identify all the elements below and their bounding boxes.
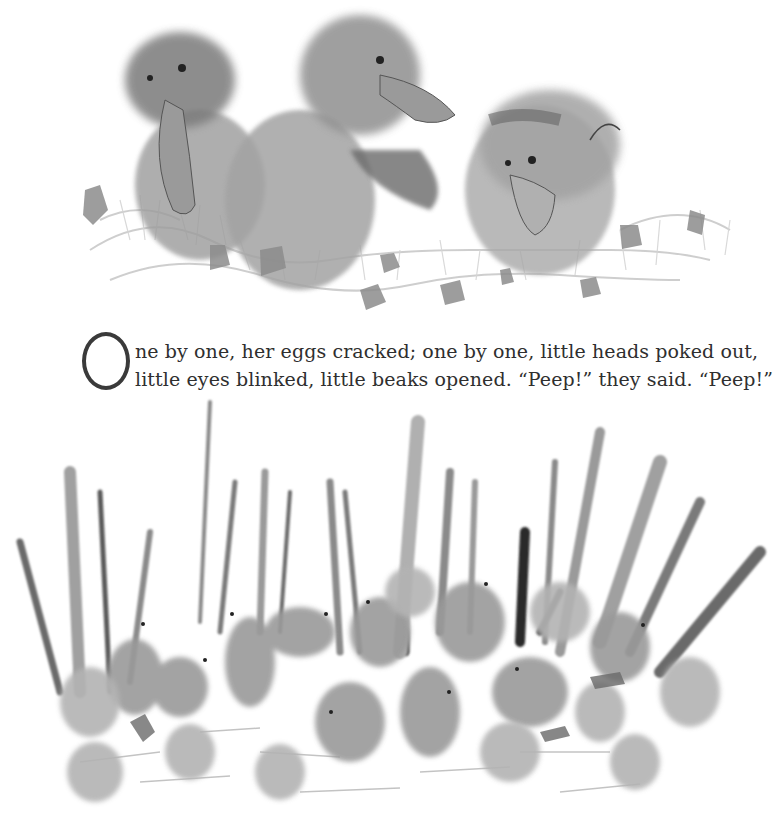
bottom-illustration-ducklings-in-reeds (0, 392, 780, 823)
story-line-1: ne by one, her eggs cracked; one by one,… (135, 340, 758, 362)
story-text: O ne by one, her eggs cracked; one by on… (82, 330, 722, 396)
drop-cap-o: O (82, 332, 130, 390)
story-line-2: little eyes blinked, little beaks opened… (135, 368, 773, 390)
top-illustration-ducklings-hatching (60, 0, 760, 330)
